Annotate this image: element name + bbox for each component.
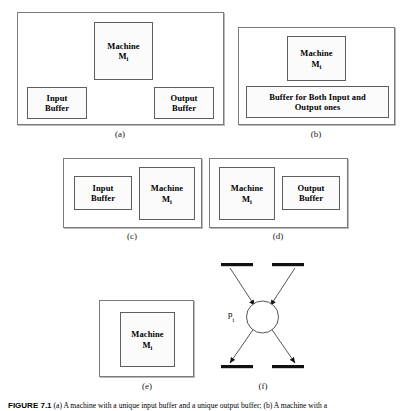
machine-label-line2: Mi bbox=[162, 194, 172, 204]
diagram-c-caption: (c) bbox=[112, 231, 152, 241]
diagram-a-input-buffer-box: Input Buffer bbox=[27, 87, 87, 119]
diagram-b-machine-box: Machine Mi bbox=[287, 36, 346, 81]
diagram-d-output-buffer-box: Output Buffer bbox=[282, 176, 340, 210]
machine-label-line1: Machine bbox=[300, 48, 332, 58]
machine-label-line2: Mi bbox=[118, 51, 128, 61]
machine-label-line2: Mi bbox=[311, 59, 321, 69]
machine-label-line2: Mi bbox=[242, 194, 252, 204]
diagram-c-frame: Input Buffer Machine Mi bbox=[63, 158, 202, 228]
input-buffer-label-line2: Buffer bbox=[91, 193, 115, 203]
transition-bar-bottom-right bbox=[272, 365, 304, 368]
diagram-e-machine-box: Machine Mi bbox=[120, 312, 175, 367]
diagram-a-caption: (a) bbox=[100, 129, 140, 139]
diagram-b-caption: (b) bbox=[296, 129, 336, 139]
shared-buffer-label-line1: Buffer for Both Input and bbox=[269, 92, 366, 102]
diagram-c-input-buffer-box: Input Buffer bbox=[74, 176, 132, 210]
figure-caption-text: (a) A machine with a unique input buffer… bbox=[53, 401, 327, 410]
diagram-b-shared-buffer-box: Buffer for Both Input and Output ones bbox=[246, 86, 389, 118]
output-buffer-label-line2: Buffer bbox=[299, 193, 323, 203]
transition-bar-bottom-left bbox=[221, 365, 253, 368]
arc-place-to-bottom-right bbox=[271, 328, 296, 364]
figure-caption-label: FIGURE 7.1 bbox=[8, 401, 52, 410]
input-buffer-label-line2: Buffer bbox=[45, 103, 69, 113]
output-buffer-label-line1: Output bbox=[297, 183, 324, 193]
output-buffer-label-line1: Output bbox=[170, 93, 197, 103]
diagram-d-machine-box: Machine Mi bbox=[219, 167, 275, 220]
arc-top-left-to-place bbox=[230, 268, 255, 306]
diagram-b-frame: Machine Mi Buffer for Both Input and Out… bbox=[238, 27, 395, 125]
diagram-f-caption: (f) bbox=[243, 381, 283, 391]
machine-label-line1: Machine bbox=[107, 41, 139, 51]
diagram-a-output-buffer-box: Output Buffer bbox=[154, 87, 214, 119]
transition-bar-top-right bbox=[272, 263, 304, 266]
transition-bar-top-left bbox=[221, 263, 253, 266]
diagram-e-caption: (e) bbox=[127, 381, 167, 391]
diagram-c-machine-box: Machine Mi bbox=[139, 167, 195, 220]
output-buffer-label-line2: Buffer bbox=[172, 103, 196, 113]
diagram-a-frame: Machine Mi Input Buffer Output Buffer bbox=[17, 12, 224, 125]
figure-container: Machine Mi Input Buffer Output Buffer (a… bbox=[0, 0, 410, 411]
input-buffer-label-line1: Input bbox=[93, 183, 114, 193]
diagram-d-caption: (d) bbox=[258, 231, 298, 241]
arc-top-right-to-place bbox=[271, 268, 296, 306]
shared-buffer-label-line2: Output ones bbox=[295, 102, 341, 112]
input-buffer-label-line1: Input bbox=[47, 93, 68, 103]
diagram-a-machine-box: Machine Mi bbox=[94, 22, 153, 80]
diagram-d-frame: Machine Mi Output Buffer bbox=[209, 158, 348, 228]
arc-place-to-bottom-left bbox=[230, 328, 255, 364]
diagram-f-petri-net: pi bbox=[200, 252, 325, 380]
machine-label-line2: Mi bbox=[142, 340, 152, 350]
machine-label-line1: Machine bbox=[231, 183, 263, 193]
place-label: pi bbox=[228, 309, 234, 321]
place-circle bbox=[247, 301, 279, 333]
figure-caption: FIGURE 7.1 (a) A machine with a unique i… bbox=[8, 401, 406, 411]
machine-label-line1: Machine bbox=[151, 183, 183, 193]
diagram-e-frame: Machine Mi bbox=[99, 300, 194, 377]
machine-label-line1: Machine bbox=[131, 329, 163, 339]
